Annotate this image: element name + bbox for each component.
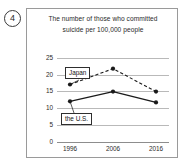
question-number: 4 bbox=[4, 10, 21, 27]
data-point-us-2016 bbox=[154, 100, 158, 104]
chart-frame: The number of those who committed suicid… bbox=[26, 8, 178, 158]
series-lines bbox=[27, 9, 179, 159]
data-point-us-2006 bbox=[111, 90, 115, 94]
worksheet-figure-panel: 4 The number of those who committed suic… bbox=[0, 0, 185, 166]
data-point-japan-2016 bbox=[154, 90, 158, 94]
data-point-us-1996 bbox=[68, 99, 72, 103]
data-point-japan-2006 bbox=[111, 67, 115, 71]
plot-area: 25 20 15 10 5 0 1996 2006 2016 bbox=[27, 9, 179, 159]
data-point-japan-1996 bbox=[68, 82, 72, 86]
series-label-japan: Japan bbox=[65, 67, 90, 79]
series-label-us: the U.S. bbox=[61, 113, 92, 125]
